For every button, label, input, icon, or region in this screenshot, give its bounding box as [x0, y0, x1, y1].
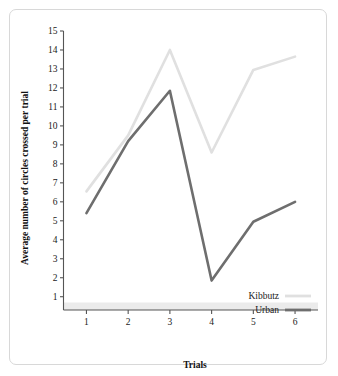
- x-axis: 123456: [64, 310, 319, 327]
- y-axis: 123456789101112131415: [48, 26, 64, 310]
- y-tick-label: 7: [53, 178, 58, 188]
- y-tick-label: 5: [53, 216, 58, 226]
- x-tick-label: 2: [126, 317, 131, 327]
- y-tick-label: 10: [48, 121, 58, 131]
- x-tick-label: 4: [209, 317, 214, 327]
- legend-label-urban: Urban: [255, 305, 279, 315]
- legend-label-kibbutz: Kibbutz: [248, 291, 279, 301]
- x-tick-label: 3: [168, 317, 173, 327]
- y-tick-label: 2: [53, 273, 58, 283]
- y-tick-label: 13: [48, 64, 58, 74]
- line-chart: 123456789101112131415 123456 KibbutzUrba…: [0, 0, 338, 376]
- series-line-urban: [86, 91, 295, 281]
- y-tick-label: 9: [53, 140, 58, 150]
- y-tick-label: 8: [53, 159, 58, 169]
- x-axis-title: Trials: [183, 360, 207, 370]
- series-line-kibbutz: [86, 50, 295, 191]
- chart-figure: 123456789101112131415 123456 KibbutzUrba…: [0, 0, 338, 376]
- y-axis-title: Average number of circles crossed per tr…: [20, 91, 30, 265]
- y-tick-label: 15: [48, 26, 58, 36]
- x-tick-label: 5: [251, 317, 256, 327]
- y-tick-label: 11: [48, 102, 57, 112]
- y-tick-label: 3: [53, 254, 58, 264]
- y-tick-label: 14: [48, 45, 58, 55]
- baseline-band: [64, 303, 319, 311]
- y-tick-label: 1: [53, 292, 58, 302]
- x-tick-label: 6: [293, 317, 298, 327]
- x-tick-label: 1: [84, 317, 89, 327]
- data-series-group: [86, 50, 295, 281]
- y-tick-label: 4: [53, 235, 58, 245]
- y-tick-label: 6: [53, 197, 58, 207]
- y-tick-label: 12: [48, 83, 58, 93]
